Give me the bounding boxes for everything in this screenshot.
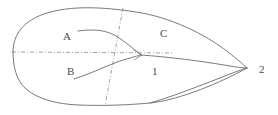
leaf-outline-lower-margin — [13, 52, 247, 105]
label-node-1: 1 — [152, 66, 158, 77]
label-a: A — [63, 31, 71, 42]
leaf-diagram — [0, 0, 278, 115]
vein-a-line — [78, 30, 141, 55]
diagonal-reference-axis — [105, 8, 123, 106]
figure-container: A B C 1 2 — [0, 0, 278, 115]
label-node-2: 2 — [259, 64, 265, 75]
horizontal-reference-axis — [12, 52, 173, 53]
leaf-outline-upper-margin — [13, 8, 247, 68]
midrib-lower-branch — [150, 68, 247, 103]
label-b: B — [67, 66, 74, 77]
label-c: C — [160, 28, 167, 39]
vein-b-line — [74, 55, 141, 79]
